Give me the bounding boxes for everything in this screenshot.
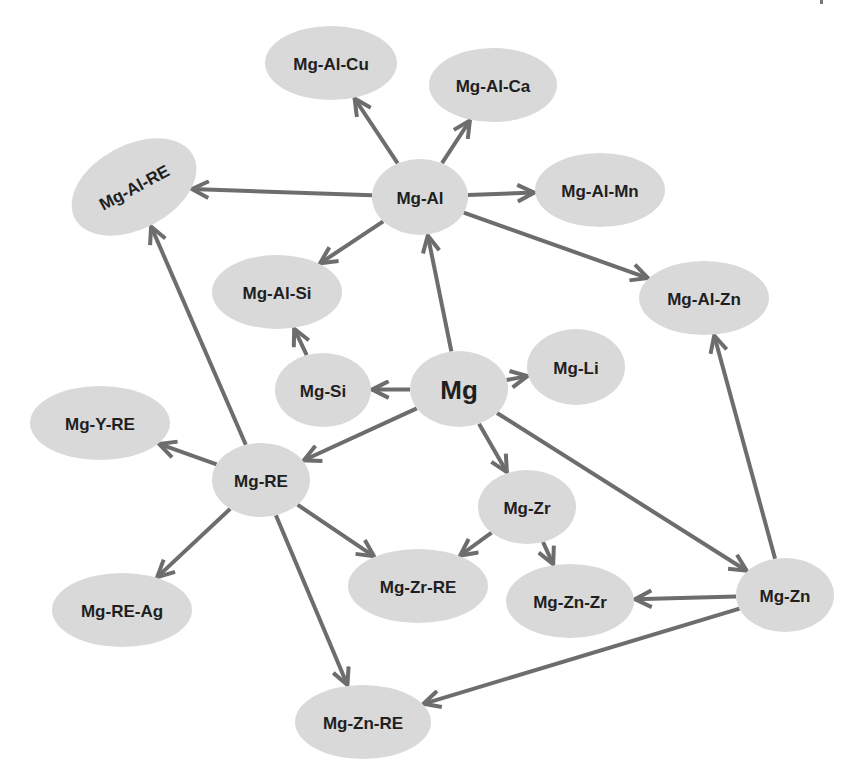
node-mg-al-cu: Mg-Al-Cu [265, 26, 397, 100]
arrow-mg-al-to-mg-al-si [320, 221, 383, 263]
node-label: Mg-Al [396, 189, 443, 208]
node-label: Mg-Al-Mn [561, 182, 638, 201]
node-mg-li: Mg-Li [527, 329, 625, 405]
node-mg-zr: Mg-Zr [478, 470, 576, 544]
arrow-mg-al-to-mg-al-ca [442, 121, 470, 164]
arrow-mg-to-mg-zr [479, 424, 507, 473]
node-mg-al-mn: Mg-Al-Mn [535, 153, 665, 227]
node-mg-al-zn: Mg-Al-Zn [639, 261, 769, 335]
nodes-layer: MgMg-AlMg-Al-CuMg-Al-CaMg-Al-REMg-Al-MnM… [30, 26, 834, 759]
node-mg-zn-re: Mg-Zn-RE [295, 685, 431, 759]
node-label: Mg-Al-Cu [293, 55, 369, 74]
arrow-mg-al-to-mg-al-mn [468, 193, 534, 196]
arrow-mg-zn-to-mg-al-zn [714, 336, 775, 559]
node-label: Mg-Li [553, 359, 598, 378]
node-mg-zn: Mg-Zn [736, 558, 834, 632]
node-mg-al: Mg-Al [372, 159, 468, 235]
node-mg-si: Mg-Si [275, 353, 371, 427]
node-mg-al-re: Mg-Al-RE [55, 118, 213, 255]
node-mg-re-ag: Mg-RE-Ag [52, 573, 192, 647]
node-label: Mg-RE [234, 472, 288, 491]
node-label: Mg-Zr [503, 499, 551, 518]
node-label: Mg-Zn [760, 587, 811, 606]
alloy-system-diagram: MgMg-AlMg-Al-CuMg-Al-CaMg-Al-REMg-Al-MnM… [0, 0, 861, 775]
arrow-mg-to-mg-li [507, 376, 528, 380]
node-mg-re: Mg-RE [212, 443, 310, 517]
node-mg-al-ca: Mg-Al-Ca [429, 48, 557, 122]
node-label: Mg-Al-Si [243, 284, 312, 303]
arrow-mg-al-to-mg-al-re [192, 189, 372, 195]
node-label: Mg-RE-Ag [81, 602, 163, 621]
arrow-mg-zr-to-mg-zr-re [460, 533, 492, 556]
arrow-mg-si-to-mg-al-si [294, 329, 307, 356]
node-label: Mg-Al-Ca [456, 77, 531, 96]
node-mg-zn-zr: Mg-Zn-Zr [506, 564, 634, 638]
node-label: Mg-Si [300, 382, 346, 401]
arrow-mg-re-to-mg-y-re [159, 444, 217, 464]
node-mg-zr-re: Mg-Zr-RE [348, 549, 488, 623]
node-mg-y-re: Mg-Y-RE [30, 386, 170, 460]
arrow-mg-al-to-mg-al-cu [355, 99, 398, 164]
node-mg: Mg [410, 351, 508, 427]
node-label: Mg-Zn-RE [323, 714, 403, 733]
arrow-mg-re-to-mg-zr-re [298, 505, 375, 557]
node-label: Mg-Zn-Zr [533, 593, 607, 612]
corner-mark [820, 0, 823, 4]
node-mg-al-si: Mg-Al-Si [212, 255, 342, 329]
arrow-mg-re-to-mg-zn-re [276, 515, 348, 685]
node-label: Mg-Zr-RE [380, 578, 456, 597]
node-label: Mg-Al-Zn [667, 290, 741, 309]
arrow-mg-to-mg-al [428, 236, 452, 352]
arrow-mg-re-to-mg-re-ag [157, 509, 230, 577]
node-label: Mg-Y-RE [65, 415, 135, 434]
node-label: Mg [440, 375, 478, 405]
arrow-mg-zn-to-mg-zn-zr [635, 596, 736, 599]
arrow-mg-zr-to-mg-zn-zr [543, 542, 553, 564]
